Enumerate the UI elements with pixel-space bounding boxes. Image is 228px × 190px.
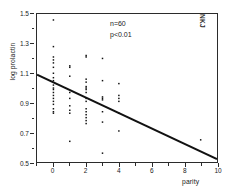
y-minor-tick (32, 28, 35, 29)
y-axis: 0.50.70.91.11.31.5 (0, 13, 34, 163)
y-tick-mark (30, 73, 34, 74)
scatter-point (53, 84, 54, 85)
x-tick-label: 4 (117, 167, 121, 174)
scatter-point (53, 98, 54, 99)
sample-size-annotation: n=60 (110, 18, 132, 29)
scatter-point (85, 92, 86, 93)
scatter-point (102, 58, 103, 59)
scatter-point (69, 67, 70, 68)
statistics-annotation: n=60 p<0.01 (110, 18, 132, 40)
scatter-point (85, 108, 86, 109)
y-tick-label: 1.5 (20, 10, 29, 17)
scatter-point (69, 92, 70, 93)
x-minor-tick (168, 163, 169, 166)
scatter-point (53, 112, 54, 113)
scatter-point (53, 101, 54, 102)
scatter-point (85, 120, 86, 121)
scatter-point (102, 121, 103, 122)
scatter-point (53, 73, 54, 74)
scatter-point (118, 83, 119, 84)
p-value-annotation: p<0.01 (110, 29, 132, 40)
scatter-point (85, 56, 86, 57)
x-tick-label: 2 (84, 167, 88, 174)
scatter-point (53, 46, 54, 47)
scatter-point (85, 101, 86, 102)
y-tick-label: 1.3 (20, 40, 29, 47)
x-tick-label: 10 (214, 167, 221, 174)
scatter-point (118, 101, 119, 102)
scatter-point (53, 89, 54, 90)
scatter-point (85, 123, 86, 124)
scatter-point (102, 111, 103, 112)
y-tick-label: 1.1 (20, 70, 29, 77)
scatter-point (102, 99, 103, 100)
scatter-point (69, 75, 70, 76)
x-tick-label: 8 (183, 167, 187, 174)
scatter-point (53, 111, 54, 112)
scatter-point (53, 77, 54, 78)
y-tick-mark (30, 133, 34, 134)
y-minor-tick (32, 118, 35, 119)
regression-line (37, 75, 217, 159)
figure-corner-label: NKJ (199, 14, 206, 28)
scatter-point (53, 92, 54, 93)
x-minor-tick (69, 163, 70, 166)
y-tick-label: 0.9 (20, 100, 29, 107)
y-tick-mark (30, 43, 34, 44)
scatter-point (53, 56, 54, 57)
scatter-point (85, 89, 86, 90)
scatter-point (69, 110, 70, 111)
scatter-point (118, 98, 119, 99)
scatter-point (102, 80, 103, 81)
scatter-point (53, 62, 54, 63)
scatter-point (53, 67, 54, 68)
scatter-point (53, 87, 54, 88)
y-tick-mark (30, 103, 34, 104)
x-axis-title: parity (182, 178, 199, 185)
x-minor-tick (102, 163, 103, 166)
scatter-point (53, 108, 54, 109)
scatter-point (85, 87, 86, 88)
scatter-point (85, 78, 86, 79)
scatter-point (85, 111, 86, 112)
y-tick-mark (30, 13, 34, 14)
x-minor-tick (201, 163, 202, 166)
scatter-point (102, 96, 103, 97)
scatter-point (53, 59, 54, 60)
y-tick-mark (30, 163, 34, 164)
x-tick-label: 6 (150, 167, 154, 174)
scatter-point (102, 152, 103, 153)
scatter-point (85, 117, 86, 118)
scatter-point (69, 65, 70, 66)
x-minor-tick (135, 163, 136, 166)
scatter-point (53, 19, 54, 20)
scatter-point (85, 86, 86, 87)
scatter-point (85, 81, 86, 82)
prolactin-parity-scatter-figure: 0.50.70.91.11.31.5 0246810 log prolactin… (0, 0, 228, 190)
scatter-point (53, 95, 54, 96)
scatter-point (69, 112, 70, 113)
scatter-point (118, 130, 119, 131)
y-tick-label: 0.5 (20, 160, 29, 167)
scatter-point (69, 98, 70, 99)
y-tick-label: 0.7 (20, 130, 29, 137)
scatter-point (69, 105, 70, 106)
y-minor-tick (32, 58, 35, 59)
scatter-point (85, 114, 86, 115)
scatter-point (53, 104, 54, 105)
scatter-point (118, 95, 119, 96)
scatter-point (85, 55, 86, 56)
scatter-point (102, 98, 103, 99)
x-tick-label: 0 (51, 167, 55, 174)
y-axis-title: log prolactin (9, 32, 16, 92)
scatter-point (200, 139, 201, 140)
scatter-point (69, 141, 70, 142)
y-minor-tick (32, 148, 35, 149)
x-minor-tick (36, 163, 37, 166)
y-minor-tick (32, 88, 35, 89)
